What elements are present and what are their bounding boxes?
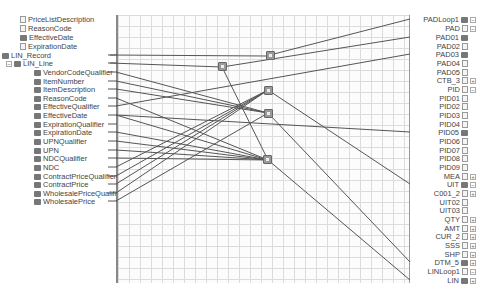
node-label: PID08	[439, 154, 460, 163]
destination-node[interactable]: PID08	[439, 154, 468, 163]
field-node-icon	[462, 77, 468, 84]
destination-node[interactable]: PAD03	[436, 50, 468, 59]
destination-node[interactable]: DTM_5+	[434, 258, 478, 267]
mapping-grid[interactable]	[116, 15, 410, 283]
node-label: NDC	[43, 163, 59, 172]
source-node[interactable]: ItemDescription	[34, 85, 95, 94]
collapse-icon[interactable]: −	[470, 17, 476, 23]
collapse-icon[interactable]: −	[470, 269, 476, 275]
record-node-icon	[34, 156, 41, 162]
destination-node[interactable]: PAD−	[445, 24, 478, 33]
node-label: CUR_2	[435, 232, 460, 241]
source-schema-tree: PriceListDescriptionReasonCodeEffectiveD…	[0, 0, 116, 300]
record-node-icon	[34, 148, 41, 154]
collapse-icon[interactable]: −	[6, 61, 12, 67]
collapse-icon[interactable]: −	[470, 26, 476, 32]
destination-node[interactable]: CTB_3+	[437, 76, 478, 85]
node-label: VendorCodeQualifier	[43, 68, 113, 77]
expand-icon[interactable]: +	[470, 278, 476, 284]
record-node-icon	[2, 53, 9, 59]
expand-icon[interactable]: +	[470, 217, 476, 223]
destination-node[interactable]: PID−	[447, 85, 478, 94]
source-node[interactable]: WholesalePrice	[34, 197, 95, 206]
source-node[interactable]: VendorCodeQualifier	[34, 68, 113, 77]
destination-node[interactable]: LINLoop1−	[427, 267, 478, 276]
node-label: PriceListDescription	[28, 15, 94, 24]
destination-node[interactable]: SSS+	[445, 241, 478, 250]
node-label: PID06	[439, 137, 460, 146]
source-node[interactable]: −LIN_Line	[4, 59, 53, 68]
field-node-icon	[462, 147, 468, 154]
source-node[interactable]: NDC	[34, 163, 59, 172]
node-label: ContractPrice	[43, 180, 88, 189]
destination-node[interactable]: PID03	[439, 111, 468, 120]
expand-icon[interactable]: +	[470, 243, 476, 249]
source-node[interactable]: UPNQualifier	[34, 137, 87, 146]
expand-icon[interactable]: +	[470, 174, 476, 180]
expand-icon[interactable]: +	[470, 260, 476, 266]
record-node-icon	[34, 96, 41, 102]
destination-node[interactable]: CUR_2+	[435, 232, 478, 241]
source-node[interactable]: ContractPrice	[34, 180, 88, 189]
expand-icon[interactable]: +	[470, 252, 476, 258]
destination-node[interactable]: PID02	[439, 102, 468, 111]
field-node-icon	[462, 121, 468, 128]
functoid-icon[interactable]	[264, 109, 273, 118]
destination-node[interactable]: PID09	[439, 163, 468, 172]
record-node-icon	[14, 61, 21, 67]
functoid-icon[interactable]	[264, 86, 273, 95]
destination-node[interactable]: PAD04	[437, 59, 468, 68]
source-node[interactable]: EffectiveDate	[20, 33, 73, 42]
source-node[interactable]: PriceListDescription	[20, 15, 94, 24]
source-node[interactable]: ExpirationDate	[34, 128, 92, 137]
record-node-icon	[461, 182, 468, 188]
functoid-icon[interactable]	[266, 51, 275, 60]
field-node-icon	[462, 164, 468, 171]
record-node-icon	[34, 130, 41, 136]
node-label: PID	[447, 85, 460, 94]
destination-node[interactable]: PID06	[439, 137, 468, 146]
node-label: UIT03	[440, 206, 460, 215]
field-node-icon	[462, 173, 468, 180]
expand-icon[interactable]: +	[470, 226, 476, 232]
functoid-icon[interactable]	[218, 62, 227, 71]
field-node-icon	[462, 112, 468, 119]
destination-node[interactable]: PAD01	[436, 33, 468, 42]
record-node-icon	[34, 199, 41, 205]
destination-node[interactable]: UIT03	[440, 206, 468, 215]
node-label: PID03	[439, 111, 460, 120]
field-node-icon	[462, 43, 468, 50]
record-node-icon	[34, 70, 41, 76]
field-node-icon	[20, 43, 26, 50]
destination-node[interactable]: C001_2+	[434, 189, 478, 198]
destination-node[interactable]: UIT−	[447, 180, 478, 189]
node-label: CTB_3	[437, 76, 460, 85]
destination-node[interactable]: PADLoop1−	[423, 15, 478, 24]
destination-node[interactable]: PID05	[438, 128, 468, 137]
node-label: PID02	[439, 102, 460, 111]
source-node[interactable]: EffectiveQualifier	[34, 102, 100, 111]
source-node[interactable]: ExpirationDate	[20, 42, 77, 51]
field-node-icon	[20, 25, 26, 32]
field-node-icon	[462, 207, 468, 214]
field-node-icon	[462, 268, 468, 275]
field-node-icon	[462, 225, 468, 232]
expand-icon[interactable]: +	[470, 191, 476, 197]
functoid-icon[interactable]	[263, 155, 272, 164]
source-node[interactable]: EffectiveDate	[34, 111, 87, 120]
expand-icon[interactable]: +	[470, 234, 476, 240]
record-node-icon	[34, 139, 41, 145]
expand-icon[interactable]: +	[470, 78, 476, 84]
node-label: PAD04	[437, 59, 460, 68]
collapse-icon[interactable]: −	[470, 182, 476, 188]
destination-node[interactable]: QTY+	[445, 215, 478, 224]
field-node-icon	[462, 86, 468, 93]
node-label: ExpirationDate	[43, 128, 92, 137]
node-label: ReasonCode	[28, 24, 72, 33]
collapse-icon[interactable]: −	[470, 87, 476, 93]
source-node[interactable]: ReasonCode	[20, 24, 72, 33]
field-node-icon	[462, 95, 468, 102]
source-node[interactable]: NDCQualifier	[34, 154, 87, 163]
node-label: PID05	[438, 128, 459, 137]
destination-node[interactable]: LIN+	[447, 276, 478, 285]
